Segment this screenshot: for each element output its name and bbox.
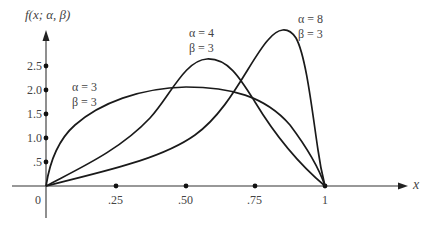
y-tick-label: .5: [33, 155, 42, 169]
annotation-curve3-alpha: α = 8: [298, 12, 323, 26]
beta-density-plot: [0, 0, 430, 230]
x-axis-arrow-icon: [398, 183, 408, 190]
x-tick-label: .50: [178, 193, 193, 207]
annotation-curve1-beta: β = 3: [72, 95, 97, 109]
y-axis-arrow-icon: [43, 30, 50, 41]
y-tick-label: 1.5: [27, 107, 42, 121]
annotation-curve3-beta: β = 3: [298, 27, 323, 41]
y-tick-label: 2.0: [27, 83, 42, 97]
x-tick-label: 1: [322, 193, 328, 207]
curve-alpha4-beta3: [46, 59, 325, 186]
annotation-curve1-alpha: α = 3: [72, 80, 97, 94]
annotation-curve2-beta: β = 3: [189, 41, 214, 55]
annotation-curve2-alpha: α = 4: [189, 26, 214, 40]
x-axis-label: x: [413, 178, 419, 192]
origin-label: 0: [35, 193, 41, 207]
y-tick-label: 1.0: [27, 131, 42, 145]
x-tick-label: .75: [247, 193, 262, 207]
y-tick-label: 2.5: [27, 59, 42, 73]
x-tick-label: .25: [108, 193, 123, 207]
y-axis-label: f(x; α, β): [25, 8, 70, 22]
